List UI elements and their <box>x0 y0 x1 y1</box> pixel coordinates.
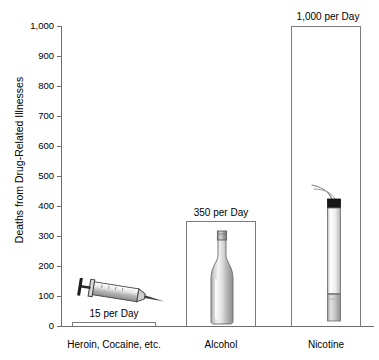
y-tick-label: 800 <box>20 81 54 91</box>
bar-value-nicotine: 1,000 per Day <box>286 11 370 22</box>
y-tick-mark <box>57 56 62 57</box>
y-tick-mark <box>57 86 62 87</box>
bottle-icon <box>205 229 239 325</box>
cigarette-icon <box>303 182 367 326</box>
bar-value-heroin-cocaine: 15 per Day <box>72 308 156 319</box>
y-tick-mark <box>57 146 62 147</box>
y-tick-label: 200 <box>20 261 54 271</box>
category-label-nicotine: Nicotine <box>286 339 366 350</box>
bar-chart: Deaths from Drug-Related Illnesses 1,000… <box>0 0 379 360</box>
y-tick-mark <box>57 26 62 27</box>
y-tick-mark <box>57 116 62 117</box>
y-tick-label: 300 <box>20 231 54 241</box>
y-tick-label: 700 <box>20 111 54 121</box>
y-tick-mark <box>57 266 62 267</box>
y-tick-label: 500 <box>20 171 54 181</box>
category-label-alcohol: Alcohol <box>181 339 261 350</box>
y-tick-mark <box>57 296 62 297</box>
y-tick-label: 1,000 <box>20 21 54 31</box>
bar-value-alcohol: 350 per Day <box>181 207 261 218</box>
syringe-icon <box>74 278 166 308</box>
y-tick-label: 100 <box>20 291 54 301</box>
y-tick-mark <box>57 206 62 207</box>
y-tick-mark <box>57 176 62 177</box>
y-tick-label: 0 <box>20 321 54 331</box>
y-tick-label: 900 <box>20 51 54 61</box>
y-tick-label: 600 <box>20 141 54 151</box>
category-label-heroin-cocaine: Heroin, Cocaine, etc. <box>44 339 184 350</box>
y-tick-label: 400 <box>20 201 54 211</box>
bar-heroin-cocaine <box>72 322 156 328</box>
y-tick-mark <box>57 326 62 327</box>
y-tick-mark <box>57 236 62 237</box>
